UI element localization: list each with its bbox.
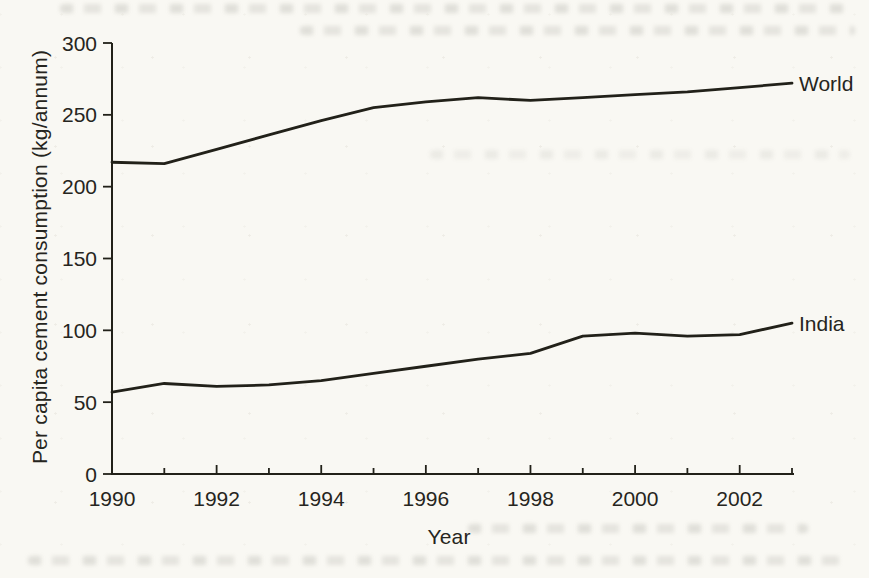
- y-tick-label: 250: [62, 103, 97, 126]
- series-line-world: [112, 83, 792, 163]
- x-tick-label: 1992: [193, 487, 240, 510]
- scanned-book-page: 0501001502002503001990199219941996199820…: [0, 0, 869, 578]
- y-tick-label: 300: [62, 32, 97, 55]
- y-tick-label: 200: [62, 175, 97, 198]
- cement-consumption-chart: 0501001502002503001990199219941996199820…: [0, 0, 869, 578]
- x-axis-label: Year: [427, 525, 470, 549]
- x-tick-label: 2002: [716, 487, 763, 510]
- y-axis-label: Per capita cement consumption (kg/annum): [28, 50, 52, 464]
- series-label-india: India: [799, 312, 845, 335]
- axes: [112, 43, 794, 474]
- y-tick-label: 50: [74, 391, 97, 414]
- x-tick-label: 1994: [298, 487, 345, 510]
- x-tick-label: 1990: [89, 487, 136, 510]
- y-tick-label: 150: [62, 247, 97, 270]
- chart-canvas: 0501001502002503001990199219941996199820…: [0, 0, 869, 578]
- x-tick-label: 1996: [402, 487, 449, 510]
- x-tick-label: 2000: [612, 487, 659, 510]
- x-tick-label: 1998: [507, 487, 554, 510]
- series-line-india: [112, 323, 792, 392]
- y-tick-label: 100: [62, 319, 97, 342]
- y-tick-label: 0: [85, 463, 97, 486]
- series-label-world: World: [799, 72, 853, 95]
